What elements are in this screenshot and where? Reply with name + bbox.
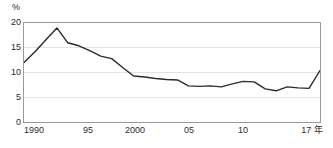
x-tick-17-year: 17 年 xyxy=(301,125,323,135)
line-series-path xyxy=(24,23,320,122)
x-axis-tick-labels: 1990 95 2000 05 10 17 年 xyxy=(0,125,333,139)
plot-area xyxy=(23,22,321,123)
x-tick-95: 95 xyxy=(83,125,93,135)
x-tick-1990: 1990 xyxy=(24,125,44,135)
x-tick-05: 05 xyxy=(184,125,194,135)
y-tick-10: 10 xyxy=(1,68,21,77)
x-tick-2000: 2000 xyxy=(125,125,145,135)
y-tick-15: 15 xyxy=(1,43,21,52)
chart-figure: % 20 15 10 5 0 1990 95 2000 05 10 17 年 xyxy=(0,0,333,148)
y-tick-20: 20 xyxy=(1,18,21,27)
x-tick-10: 10 xyxy=(238,125,248,135)
y-tick-5: 5 xyxy=(1,93,21,102)
